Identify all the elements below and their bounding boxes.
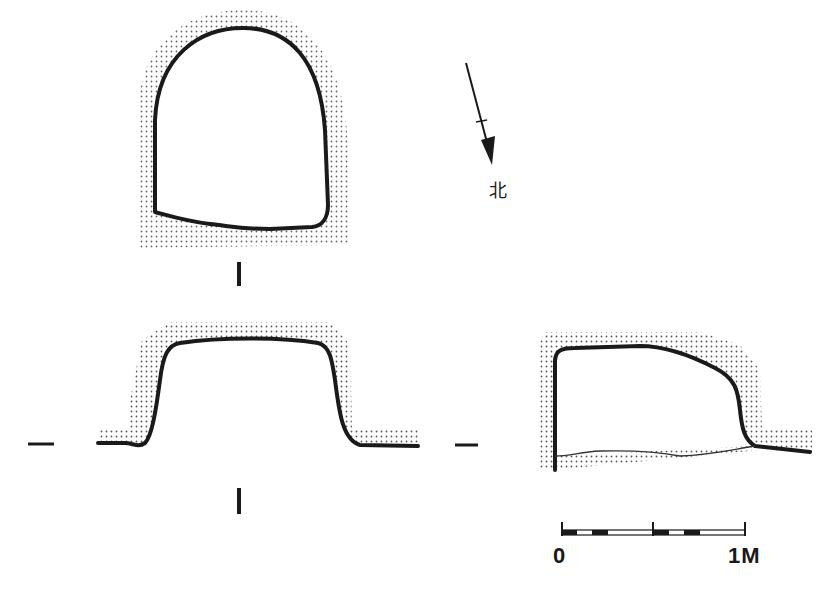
north-arrow-icon xyxy=(466,63,495,165)
scale-start-label: 0 xyxy=(553,543,565,569)
longitudinal-section xyxy=(28,322,418,446)
scale-end-label: 1M xyxy=(728,543,761,569)
cross-section xyxy=(455,332,812,470)
plan-section-drawing xyxy=(0,0,829,597)
plan-outline xyxy=(155,28,328,229)
section-left-fill xyxy=(140,339,360,447)
section-marker-bottom xyxy=(237,488,241,514)
section-marker-top xyxy=(237,262,241,286)
plan-view xyxy=(138,10,348,248)
scale-bar xyxy=(562,522,745,536)
north-label: 北 xyxy=(489,176,507,202)
